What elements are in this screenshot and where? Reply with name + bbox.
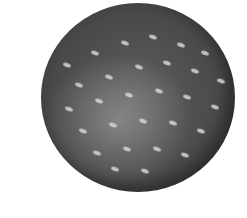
dimple-highlight xyxy=(95,98,104,104)
dimple-highlight xyxy=(121,40,130,46)
dimple-highlight xyxy=(135,64,144,70)
dimple-highlight xyxy=(183,94,192,100)
dimple-highlight xyxy=(63,62,72,68)
dimple-highlight xyxy=(141,168,150,174)
golf-ball xyxy=(41,3,235,192)
dimple-highlight xyxy=(201,50,210,56)
dimple-highlight xyxy=(191,68,200,74)
dimple-highlight xyxy=(153,146,162,152)
dimple-highlight xyxy=(123,146,132,152)
dimple-highlight xyxy=(155,88,164,94)
dimple-highlight xyxy=(177,42,186,48)
dimple-highlight xyxy=(217,78,226,84)
dimple-highlight xyxy=(75,82,84,88)
dimple-highlight xyxy=(93,150,102,156)
dimple-highlight xyxy=(111,166,120,172)
dimple-highlight xyxy=(197,128,206,134)
dimple-highlight xyxy=(139,118,148,124)
dimple-highlight xyxy=(211,104,220,110)
dimple-highlight xyxy=(109,122,118,128)
dimple-highlight xyxy=(163,60,172,66)
dimple-highlight xyxy=(149,34,158,40)
dimple-highlight xyxy=(79,128,88,134)
dimple-highlight xyxy=(65,106,74,112)
dimple-highlight xyxy=(125,92,134,98)
dimple-highlight xyxy=(91,50,100,56)
dimple-highlight xyxy=(169,120,178,126)
dimple-highlight xyxy=(181,152,190,158)
dimple-highlight xyxy=(105,74,114,80)
